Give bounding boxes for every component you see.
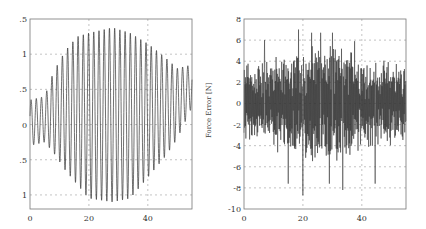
right-y-axis-label-text: Force Error [N] [205,83,213,139]
left-chart: .51.50.5102040 [19,15,192,223]
y-tick-label: -6 [233,163,241,172]
x-tick-label: 20 [84,214,94,223]
y-tick-label: 0 [22,121,27,130]
right-y-axis-label: Force Error [N] [205,80,215,140]
y-tick-label: 1 [22,50,27,59]
x-tick-label: 0 [27,214,32,223]
y-tick-label: 2 [236,78,241,87]
y-tick-label: -4 [233,142,241,151]
y-tick-label: -2 [233,121,241,130]
right-chart: 86420-2-4-6-8-1002040 [228,15,406,223]
x-tick-label: 40 [143,214,153,223]
y-tick-label: -8 [233,184,241,193]
y-tick-label: 0 [236,99,241,108]
x-tick-label: 40 [357,214,367,223]
y-tick-label: 1 [22,191,27,200]
x-tick-label: 20 [298,214,308,223]
y-tick-label: .5 [19,15,27,24]
y-tick-label: -10 [228,205,241,214]
force-error-line [244,30,406,196]
y-tick-label: .5 [19,85,27,94]
y-tick-label: 8 [236,15,241,24]
x-tick-label: 0 [241,214,246,223]
y-tick-label: 4 [236,57,241,66]
y-tick-label: .5 [19,156,27,165]
y-tick-label: 6 [236,36,241,45]
